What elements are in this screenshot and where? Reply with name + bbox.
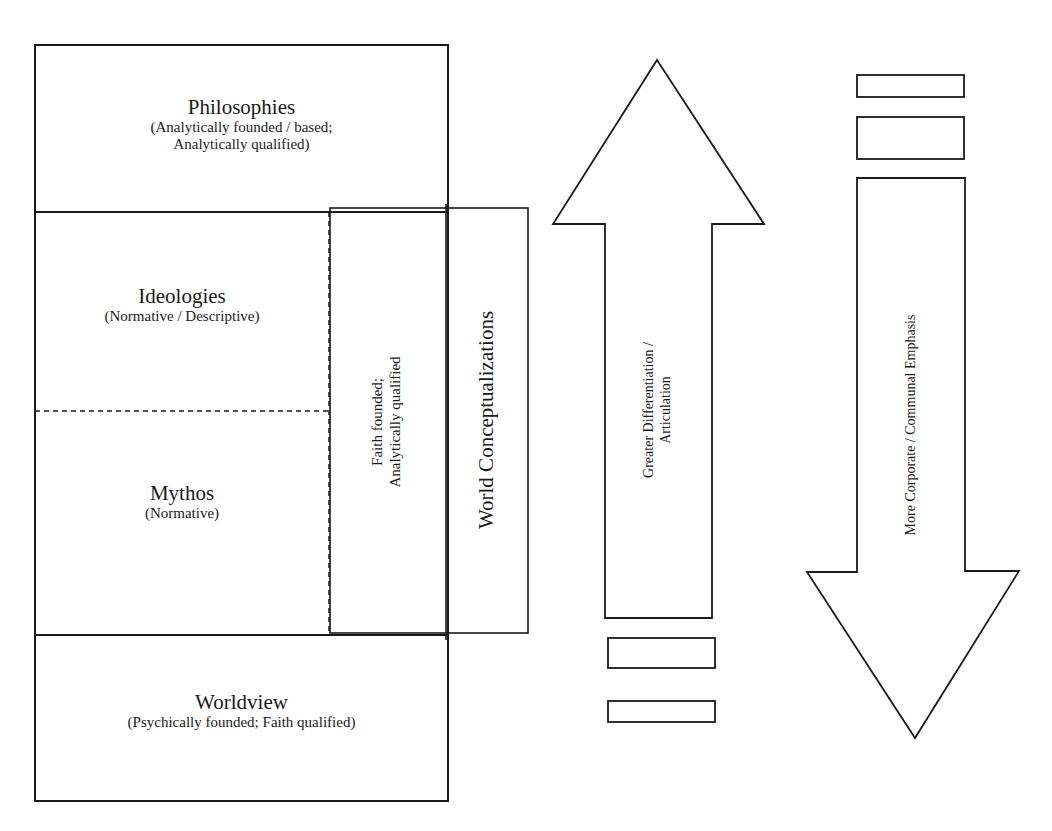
block-mythos: Mythos (Normative)	[35, 481, 329, 522]
philosophies-subtitle-2: Analytically qualified)	[35, 136, 448, 153]
up-arrow-label: Greater Differentiation / Articulation	[641, 342, 675, 478]
faith-column-label: Faith founded; Analytically qualified	[368, 356, 404, 487]
ideologies-title: Ideologies	[35, 284, 329, 308]
down-arrow-dash-1	[857, 75, 964, 97]
worldview-title: Worldview	[35, 690, 448, 714]
up-arrow-icon	[553, 60, 764, 618]
faith-column-line1: Faith founded;	[368, 356, 386, 487]
down-arrow-dash-2	[857, 117, 964, 159]
block-philosophies: Philosophies (Analytically founded / bas…	[35, 95, 448, 154]
up-arrow-dash-1	[608, 638, 715, 668]
mythos-subtitle: (Normative)	[35, 505, 329, 522]
philosophies-subtitle-1: (Analytically founded / based;	[35, 119, 448, 136]
faith-column-line2: Analytically qualified	[386, 356, 404, 487]
world-conceptualizations-label: World Conceptualizations	[474, 311, 499, 529]
down-arrow-label: More Corporate / Communal Emphasis	[903, 315, 920, 536]
up-arrow-line2: Articulation	[658, 342, 675, 478]
mythos-title: Mythos	[35, 481, 329, 505]
up-arrow-line1: Greater Differentiation /	[641, 342, 658, 478]
up-arrow-dash-2	[608, 701, 715, 722]
block-ideologies: Ideologies (Normative / Descriptive)	[35, 284, 329, 325]
ideologies-subtitle: (Normative / Descriptive)	[35, 308, 329, 325]
philosophies-title: Philosophies	[35, 95, 448, 119]
block-worldview: Worldview (Psychically founded; Faith qu…	[35, 690, 448, 731]
worldview-subtitle: (Psychically founded; Faith qualified)	[35, 714, 448, 731]
